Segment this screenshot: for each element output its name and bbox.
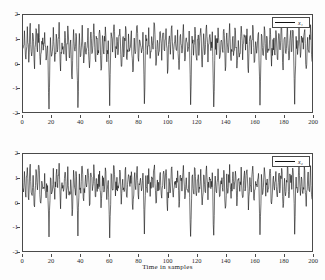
y-axis-ticks-top: -2-1012 — [0, 14, 20, 113]
y-tick-label: 2 — [15, 11, 18, 18]
legend-top[interactable]: x₁ — [272, 17, 310, 28]
legend-line-sample-bottom — [275, 161, 295, 162]
legend-label-bottom: x₂ — [298, 159, 303, 165]
y-tick-label: -2 — [13, 249, 18, 256]
x-tick-label: 40 — [77, 119, 84, 126]
x-axis-label: Time in samples — [22, 263, 313, 271]
x-axis-ticks-top: 020406080100120140160180200 — [22, 115, 313, 127]
signal-trace-bottom — [23, 154, 312, 251]
y-tick-label: 2 — [15, 150, 18, 157]
signal-trace-top — [23, 15, 312, 112]
x-tick-label: 0 — [20, 119, 23, 126]
plot-area-top: x₁ — [22, 14, 313, 113]
y-tick-label: -1 — [13, 85, 18, 92]
x-tick-label: 160 — [250, 119, 260, 126]
y-tick-label: 0 — [15, 199, 18, 206]
legend-label-top: x₁ — [298, 20, 303, 26]
signal-path — [23, 22, 312, 109]
legend-line-sample-top — [275, 22, 295, 23]
x-tick-label: 60 — [106, 119, 113, 126]
x-tick-label: 100 — [163, 119, 173, 126]
plot-panel-bottom: -2-1012 x₂ 020406080100120140160180200 T… — [0, 139, 325, 280]
x-tick-label: 200 — [308, 119, 318, 126]
plot-panel-top: -2-1012 x₁ 020406080100120140160180200 — [0, 0, 325, 133]
y-axis-ticks-bottom: -2-1012 — [0, 153, 20, 252]
y-tick-label: 0 — [15, 60, 18, 67]
y-tick-label: -2 — [13, 110, 18, 117]
y-tick-label: 1 — [15, 175, 18, 182]
plot-area-bottom: x₂ — [22, 153, 313, 252]
y-tick-label: 1 — [15, 36, 18, 43]
x-tick-label: 140 — [221, 119, 231, 126]
legend-bottom[interactable]: x₂ — [272, 156, 310, 167]
signal-path — [23, 163, 312, 238]
y-tick-label: -1 — [13, 224, 18, 231]
x-tick-label: 120 — [192, 119, 202, 126]
figure-canvas: -2-1012 x₁ 020406080100120140160180200 -… — [0, 0, 325, 280]
x-tick-label: 180 — [279, 119, 289, 126]
x-tick-label: 20 — [48, 119, 55, 126]
x-tick-label: 80 — [135, 119, 142, 126]
